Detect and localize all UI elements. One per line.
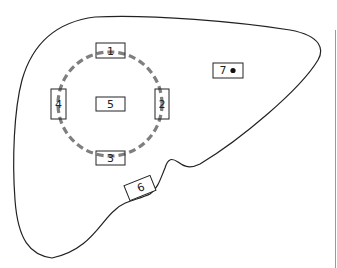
sample-box-7: 7	[213, 63, 243, 78]
sample-label-7: 7	[220, 64, 227, 77]
sample-label-2: 2	[159, 98, 166, 111]
sample-label-1: 1	[107, 45, 114, 58]
sample-box-2: 2	[155, 89, 169, 119]
liver-outline	[14, 16, 321, 258]
dot-marker-icon	[230, 68, 235, 73]
sample-label-3: 3	[107, 152, 114, 165]
sample-box-3: 3	[96, 151, 125, 165]
sample-box-4: 4	[51, 89, 66, 119]
sample-box-5: 5	[96, 97, 125, 111]
sample-label-4: 4	[55, 98, 62, 111]
sample-box-1: 1	[96, 43, 125, 58]
liver-diagram: 1 2 3 4 5 6 7	[0, 0, 337, 268]
sample-label-5: 5	[107, 98, 114, 111]
sample-box-6: 6	[124, 175, 156, 200]
